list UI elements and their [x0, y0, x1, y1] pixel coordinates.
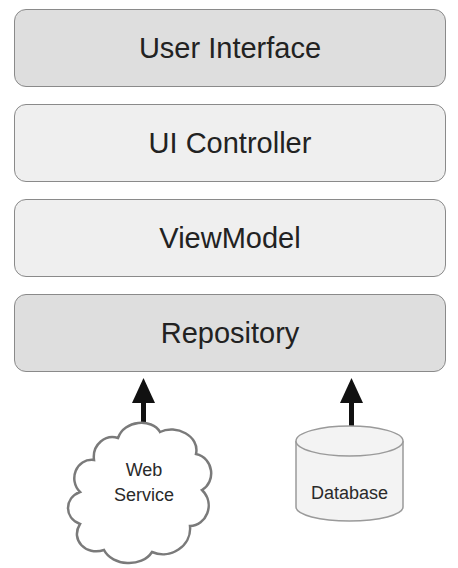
database-icon	[296, 426, 403, 521]
web-service-label: Web Service	[94, 458, 194, 508]
web-service-label-line1: Web	[94, 458, 194, 483]
database-label-text: Database	[311, 483, 388, 503]
arrow-up-icon	[132, 378, 155, 426]
database-label: Database	[296, 481, 403, 506]
arrow-up-icon	[340, 378, 363, 426]
web-service-label-line2: Service	[94, 483, 194, 508]
